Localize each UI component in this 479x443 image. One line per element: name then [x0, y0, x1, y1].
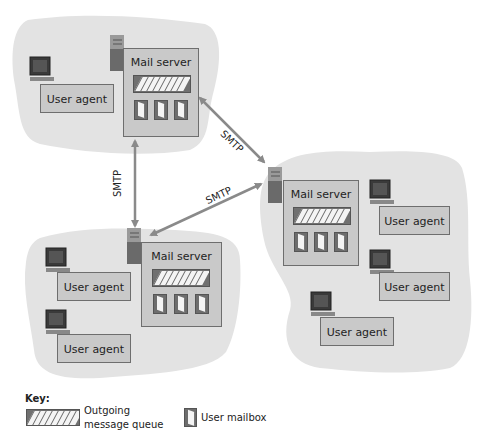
- key-mailbox-label: User mailbox: [201, 412, 266, 423]
- user-agent-label: User agent: [41, 92, 113, 105]
- mail-server-box: Mail server: [283, 180, 359, 266]
- computer-icon: [311, 292, 335, 316]
- user-mailbox-icon: [314, 232, 328, 252]
- outgoing-message-queue-icon: [133, 75, 191, 93]
- user-mailbox-icon: [294, 232, 308, 252]
- user-agent-label: User agent: [58, 342, 130, 355]
- user-mailbox-icon: [195, 294, 209, 314]
- user-mailbox-icon: [134, 100, 148, 120]
- server-icon: [268, 167, 282, 203]
- mail-server-label: Mail server: [284, 188, 358, 201]
- user-agent-box: User agent: [379, 272, 450, 301]
- smtp-arrow-topleft-right: [200, 98, 264, 162]
- user-agent-box: User agent: [57, 272, 131, 301]
- mail-server-label: Mail server: [124, 56, 198, 69]
- user-mailbox-icon: [153, 294, 167, 314]
- email-system-diagram: SMTP SMTP SMTP User agent Mail server Ma…: [0, 0, 479, 443]
- key-queue-label-line2: message queue: [84, 419, 163, 430]
- mail-server-box: Mail server: [141, 242, 222, 327]
- user-agent-box: User agent: [57, 334, 131, 363]
- smtp-label: SMTP: [112, 170, 123, 197]
- smtp-arrow-bottomleft-right: [151, 184, 261, 235]
- user-agent-box: User agent: [320, 317, 394, 346]
- key-queue-label-line1: Outgoing: [84, 405, 130, 416]
- user-agent-label: User agent: [380, 214, 449, 227]
- computer-icon: [30, 57, 54, 81]
- computer-icon: [370, 250, 394, 274]
- user-agent-label: User agent: [58, 280, 130, 293]
- user-agent-box: User agent: [379, 206, 450, 235]
- outgoing-message-queue-icon: [293, 207, 351, 225]
- computer-icon: [370, 180, 394, 204]
- mail-server-box: Mail server: [123, 48, 199, 137]
- computer-icon: [46, 310, 70, 334]
- user-agent-label: User agent: [321, 325, 393, 338]
- key-title: Key:: [25, 393, 50, 404]
- user-mailbox-icon: [334, 232, 348, 252]
- user-mailbox-icon: [174, 294, 188, 314]
- outgoing-message-queue-icon: [152, 269, 210, 287]
- server-icon: [127, 228, 141, 264]
- key-outgoing-queue-icon: [26, 409, 80, 426]
- user-mailbox-icon: [174, 100, 188, 120]
- user-agent-label: User agent: [380, 280, 449, 293]
- key-user-mailbox-icon: [184, 408, 197, 427]
- user-agent-box: User agent: [40, 84, 114, 113]
- user-mailbox-icon: [154, 100, 168, 120]
- computer-icon: [46, 248, 70, 272]
- mail-server-label: Mail server: [142, 250, 221, 263]
- server-icon: [110, 35, 124, 71]
